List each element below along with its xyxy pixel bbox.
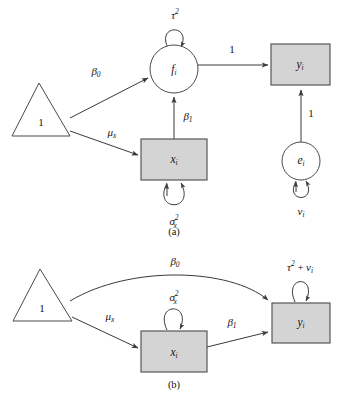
- edge-x-to-y-beta1-b: [207, 332, 268, 347]
- label-beta0-a: β0: [90, 65, 100, 79]
- node-constant-one-a: [12, 83, 70, 136]
- label-one-f-to-y: 1: [229, 43, 235, 55]
- node-label-one-a: 1: [38, 116, 44, 128]
- node-label-one-b: 1: [39, 302, 45, 314]
- label-sigma2-x-b: σ2x: [169, 289, 178, 306]
- path-diagram-figure: τ2 β0 μx 1 fi β1 xi: [0, 0, 343, 397]
- label-mu-x-a: μx: [107, 126, 118, 140]
- self-loop-y-tau2-plus-v-b: [292, 282, 308, 302]
- edge-one-to-f-beta0: [70, 78, 148, 118]
- self-loop-x-sigma2-b: [164, 309, 182, 330]
- diagram-canvas: τ2 β0 μx 1 fi β1 xi: [0, 0, 343, 397]
- caption-panel-a: (a): [168, 226, 180, 238]
- caption-panel-b: (b): [168, 379, 181, 391]
- edge-one-to-x-mux: [70, 131, 138, 155]
- label-tau2-plus-v-b: τ2+vi: [287, 259, 313, 275]
- label-tau-squared-a: τ2: [171, 7, 179, 21]
- label-beta1-b: β1: [226, 316, 236, 330]
- label-v-i-a: vi: [298, 205, 305, 219]
- label-beta0-b: β0: [169, 255, 179, 269]
- label-one-e-to-y: 1: [308, 107, 314, 119]
- edge-one-to-x-mux-b: [72, 317, 138, 348]
- label-beta1-a: β1: [182, 110, 192, 124]
- label-mu-x-b: μx: [105, 310, 116, 324]
